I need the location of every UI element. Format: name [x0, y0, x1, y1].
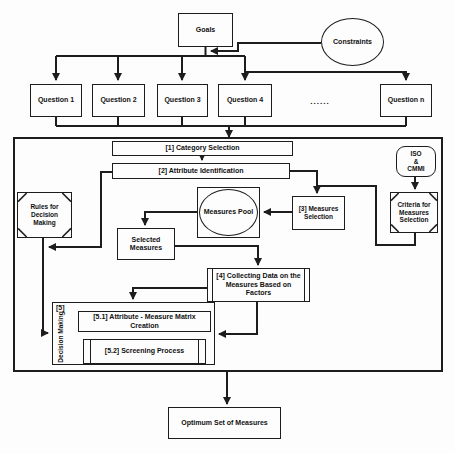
step5-1-matrix-creation-box: [5.1] Attribute - Measure Matrix Creatio…: [78, 311, 211, 332]
connector-step4-to-step5-top: [133, 288, 207, 299]
iso-cmmi-label: ISO & CMMI: [407, 150, 424, 173]
measures-pool-box: Measures Pool: [197, 187, 260, 238]
connector-pool-to-selected: [145, 212, 197, 225]
questions-ellipsis: ......: [298, 95, 342, 109]
step5-2-right-bar: [198, 340, 199, 363]
goals-label: Goals: [196, 26, 215, 34]
question-4-box: Question 4: [218, 84, 272, 117]
step5-decision-making-container: [5] Decision Making [5.1] Attribute - Me…: [52, 302, 215, 365]
connector-rules-to-step5: [43, 238, 48, 333]
question-n-box: Question n: [380, 84, 432, 117]
constraints-label: Constraints: [333, 38, 372, 46]
selected-measures-box: Selected Measures: [117, 228, 175, 260]
step4-collecting-data-box: [4] Collecting Data on the Measures Base…: [207, 268, 310, 302]
step5-2-screening-process-box: [5.2] Screening Process: [83, 339, 206, 364]
step3-measures-selection-box: [3] Measures Selection: [292, 196, 345, 230]
step5-side-label: Decision Making: [57, 310, 67, 364]
iso-cmmi-box: ISO & CMMI: [396, 146, 436, 177]
connector-selected-to-step4: [175, 246, 258, 265]
step1-category-selection-box: [1] Category Selection: [112, 141, 293, 156]
constraints-ellipse: Constraints: [321, 18, 384, 66]
question-3-box: Question 3: [157, 84, 208, 117]
criteria-measures-selection-box: Criteria for Measures Selection: [390, 192, 438, 233]
step2-attribute-identification-box: [2] Attribute Identification: [112, 163, 290, 179]
goals-box: Goals: [178, 13, 233, 47]
flowchart-canvas: Goals Constraints Question 1 Question 2 …: [0, 0, 455, 453]
connector-step2-to-step3: [290, 171, 317, 193]
question-2-box: Question 2: [92, 84, 145, 117]
connector-question-stubs: [56, 117, 406, 126]
connector-step4-to-step5-right: [219, 302, 257, 334]
rules-decision-making-box: Rules for Decision Making: [17, 192, 72, 238]
question-1-box: Question 1: [30, 84, 82, 117]
step5-2-left-bar: [90, 340, 91, 363]
optimum-set-box: Optimum Set of Measures: [168, 407, 281, 439]
connector-branch-question-n: [245, 72, 406, 80]
